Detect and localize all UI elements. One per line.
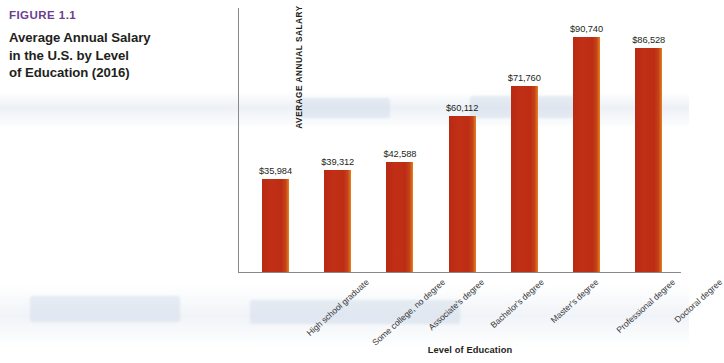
category-label: Professional degree (614, 277, 677, 335)
x-axis-line (238, 272, 681, 273)
category-label: Master's degree (548, 277, 600, 325)
bar[interactable] (386, 162, 413, 272)
bar[interactable] (449, 116, 476, 272)
bar[interactable] (262, 179, 289, 272)
bar-value-label: $42,588 (383, 149, 416, 159)
plot-area: $35,984$39,312$42,588$60,112$71,760$90,7… (239, 8, 681, 272)
bar[interactable] (573, 37, 600, 272)
bar-value-label: $86,528 (632, 35, 665, 45)
bar-value-label: $90,740 (570, 24, 603, 34)
bar[interactable] (324, 170, 351, 272)
category-label: Doctoral degree (673, 277, 724, 325)
bar-value-label: $60,112 (446, 103, 478, 113)
x-axis-title: Level of Education (380, 345, 560, 355)
bar-value-label: $39,312 (321, 157, 354, 167)
category-label: Some college, no degree (370, 277, 447, 348)
bar-value-label: $71,760 (508, 73, 541, 83)
bar-value-label: $35,984 (259, 166, 292, 176)
bar[interactable] (635, 48, 662, 272)
category-label: Bachelor's degree (488, 277, 545, 330)
bar[interactable] (511, 86, 538, 272)
category-label: High school graduate (305, 277, 371, 338)
